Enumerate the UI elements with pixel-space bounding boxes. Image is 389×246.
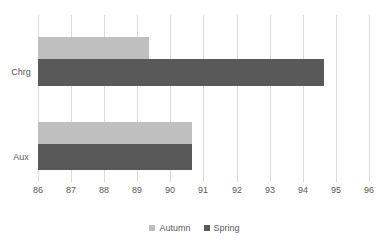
legend-label-spring: Spring (214, 223, 240, 233)
category-label-aux: Aux (4, 152, 38, 162)
value-axis: 86 87 88 89 90 91 92 93 94 95 96 (38, 184, 369, 200)
bar-chart: Chrg Aux 86 87 88 89 90 91 92 93 94 95 9… (0, 0, 389, 246)
xtick-label-86: 86 (25, 184, 51, 196)
category-axis: Chrg Aux (0, 15, 38, 182)
legend-swatch-autumn-icon (149, 225, 155, 231)
xtick-label-88: 88 (91, 184, 117, 196)
xtick-label-92: 92 (224, 184, 250, 196)
bar-group-chrg (38, 37, 369, 86)
bar-aux-autumn[interactable] (38, 122, 192, 144)
category-label-chrg: Chrg (4, 67, 38, 77)
bar-chrg-autumn[interactable] (38, 37, 149, 59)
legend-item-spring[interactable]: Spring (204, 223, 240, 233)
bar-group-aux (38, 122, 369, 170)
gridline-96 (369, 15, 370, 182)
xtick-label-91: 91 (190, 184, 216, 196)
legend-item-autumn[interactable]: Autumn (149, 223, 190, 233)
xtick-label-95: 95 (323, 184, 349, 196)
xtick-label-93: 93 (257, 184, 283, 196)
xtick-label-87: 87 (58, 184, 84, 196)
xtick-label-89: 89 (124, 184, 150, 196)
chart-legend: Autumn Spring (0, 221, 389, 235)
bar-chrg-spring[interactable] (38, 59, 324, 86)
plot-area (38, 15, 369, 182)
legend-label-autumn: Autumn (159, 223, 190, 233)
legend-swatch-spring-icon (204, 225, 210, 231)
xtick-label-94: 94 (290, 184, 316, 196)
bar-aux-spring[interactable] (38, 144, 192, 170)
xtick-label-96: 96 (356, 184, 382, 196)
xtick-label-90: 90 (157, 184, 183, 196)
